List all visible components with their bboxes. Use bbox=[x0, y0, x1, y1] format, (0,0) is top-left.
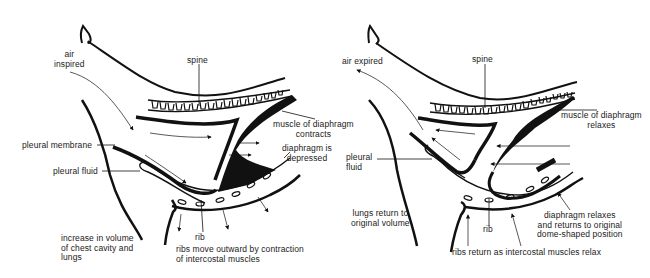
volume-label: increase in volume of chest cavity and l… bbox=[61, 234, 134, 263]
air-expired-label: air expired bbox=[342, 57, 383, 67]
pleural-fluid bbox=[140, 162, 205, 203]
rib-label: rib bbox=[195, 233, 205, 243]
pleural-membrane bbox=[410, 133, 475, 173]
air-inspired-label: air inspired bbox=[54, 50, 85, 69]
nose-outline bbox=[368, 26, 378, 44]
chest-wall-outer bbox=[465, 178, 583, 209]
diaphragm-label: diaphragm relaxes and returns to origina… bbox=[537, 211, 623, 240]
pleural-fluid-label: pleural fluid bbox=[346, 153, 372, 172]
inspiration-diagram: air inspired spine muscle of diaphragm c… bbox=[0, 0, 325, 278]
pleural-fluid-label: pleural fluid bbox=[53, 167, 98, 177]
expiration-diagram: air expired spine muscle of diaphragm re… bbox=[325, 0, 650, 278]
muscle-label: muscle of diaphragm relaxes bbox=[561, 111, 642, 130]
lung-top bbox=[136, 117, 237, 180]
back-outline bbox=[89, 42, 285, 95]
pleural-membrane-label: pleural membrane bbox=[22, 141, 92, 151]
ribs-return-label: ribs return as intercostal muscles relax bbox=[452, 248, 601, 258]
spine-label: spine bbox=[187, 56, 208, 66]
inspiration-illustration bbox=[0, 0, 325, 278]
spine-label: spine bbox=[472, 55, 493, 65]
back-outline bbox=[376, 43, 577, 99]
body-leg-outline bbox=[451, 202, 465, 252]
volume-label: lungs return to original volume bbox=[351, 209, 410, 228]
ribs-movement-label: ribs move outward by contraction of inte… bbox=[176, 245, 304, 264]
pleural-membrane bbox=[113, 147, 216, 193]
nose-outline bbox=[81, 26, 91, 43]
ribs bbox=[464, 176, 550, 202]
rib-label: rib bbox=[483, 225, 493, 235]
